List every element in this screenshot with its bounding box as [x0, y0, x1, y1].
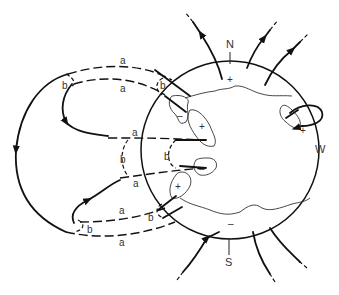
- polarity-minus-upper: –: [177, 110, 183, 121]
- label-b-4: b: [164, 151, 170, 162]
- west-label: W: [315, 143, 326, 155]
- polarity-plus-north: +: [227, 74, 233, 85]
- label-b-1: b: [62, 80, 68, 91]
- polarity-plus-upper: +: [199, 121, 205, 132]
- label-a-3: a: [132, 127, 138, 138]
- coastline-south: [180, 198, 310, 214]
- field-line-south-1-dash: [177, 272, 183, 280]
- inner-loop-lower: [73, 180, 120, 223]
- label-b-6: b: [148, 212, 154, 223]
- cross-stroke-2: [165, 96, 186, 112]
- west-loop: [290, 105, 322, 128]
- north-label: N: [226, 38, 234, 50]
- coastline-north: [185, 86, 292, 98]
- field-line-north-3-dash: [300, 34, 308, 42]
- label-b-5: b: [87, 224, 93, 235]
- polarity-minus-south: –: [228, 218, 234, 229]
- label-a-4: a: [133, 178, 139, 189]
- arc-a-top-outer: [68, 66, 172, 80]
- label-a-1: a: [120, 55, 126, 66]
- south-label: S: [225, 256, 232, 268]
- label-a-5: a: [119, 205, 125, 216]
- field-line-south-3: [270, 228, 300, 262]
- label-b-3: b: [120, 154, 126, 165]
- label-a-6: a: [119, 237, 125, 248]
- magnetic-field-diagram: + – + – + – + N S W a a a: [0, 0, 339, 295]
- label-b-2: b: [160, 80, 166, 91]
- field-line-north-2-dash: [270, 20, 278, 30]
- field-line-south-2: [253, 232, 270, 274]
- bracket-b4: [169, 140, 177, 168]
- arc-a-mid-lower: [120, 168, 204, 178]
- outer-loop: [16, 74, 68, 232]
- field-line-south-2-dash: [270, 274, 275, 282]
- polarity-plus-lower: +: [175, 181, 181, 192]
- cross-stroke-4: [158, 196, 176, 210]
- label-a-2: a: [120, 83, 126, 94]
- field-line-north-1: [193, 22, 222, 79]
- bracket-b5: [74, 220, 83, 232]
- inner-loop-upper: [63, 84, 108, 136]
- field-line-south-3-dash: [300, 262, 307, 268]
- field-line-north-2: [247, 30, 270, 68]
- field-line-north-1-dash: [185, 12, 193, 22]
- arc-a-bot-outer: [66, 222, 175, 236]
